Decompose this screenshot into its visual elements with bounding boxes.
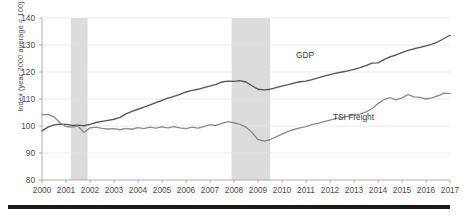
series-label-tsi-freight: TSI Freight: [333, 112, 374, 122]
bottom-rule: [8, 205, 450, 209]
series-label-gdp: GDP: [296, 50, 314, 60]
